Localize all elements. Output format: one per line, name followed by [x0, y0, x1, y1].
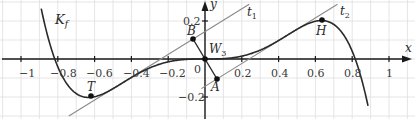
- y-axis-arrow-icon: [202, 1, 209, 11]
- x-tick-label: 0.4: [271, 67, 289, 80]
- point-label-T: T: [87, 80, 96, 94]
- x-tick-label: −1: [19, 67, 35, 80]
- y-tick-label: −0.2: [178, 91, 205, 104]
- point-T: [88, 93, 94, 99]
- x-tick-label: 0.6: [307, 67, 325, 80]
- origin-label: 0: [194, 63, 201, 76]
- y-axis-label: y: [209, 0, 217, 11]
- point-label-W3: W3: [209, 42, 226, 58]
- x-axis-label: x: [405, 41, 412, 55]
- tangent-label-t1: t1: [247, 5, 257, 21]
- point-label-A: A: [210, 80, 220, 94]
- x-tick-label: −0.6: [86, 67, 113, 80]
- point-W3: [202, 56, 208, 62]
- x-tick-label: −0.4: [123, 67, 150, 80]
- function-graph: −1 −0.8 −0.6 −0.4 −0.2 0.2 0.4 0.6 0.8 1…: [0, 0, 415, 119]
- curve-label: Kf: [54, 12, 70, 29]
- x-tick-label: −0.2: [159, 67, 186, 80]
- tangent-label-t2: t2: [340, 4, 350, 20]
- point-H: [319, 17, 325, 23]
- graph-canvas: −1 −0.8 −0.6 −0.4 −0.2 0.2 0.4 0.6 0.8 1…: [0, 0, 415, 119]
- point-label-B: B: [186, 24, 196, 38]
- x-tick-label: 1: [386, 67, 393, 80]
- x-tick-label: 0.2: [234, 67, 252, 80]
- x-tick-label: 0.8: [344, 67, 362, 80]
- x-tick-label: −0.8: [50, 67, 77, 80]
- point-label-H: H: [315, 24, 327, 38]
